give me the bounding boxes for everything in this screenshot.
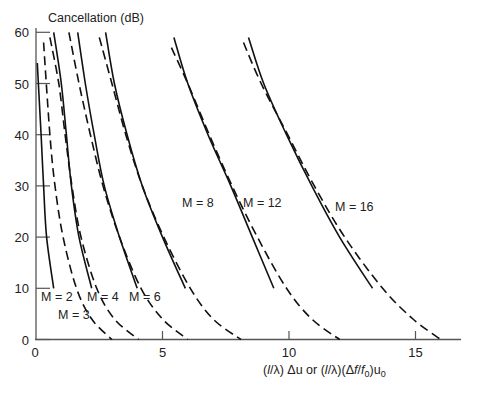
- curve-label: M = 8: [182, 196, 214, 210]
- curve-label: M = 6: [129, 290, 161, 304]
- curve-label: M = 3: [58, 308, 90, 322]
- y-tick-label: 0: [22, 333, 29, 348]
- x-tick-label: 5: [159, 345, 166, 360]
- x-tick-label: 15: [408, 345, 422, 360]
- x-ticks: 051015: [31, 331, 422, 360]
- x-tick-label: 10: [282, 345, 296, 360]
- solid-curve: [174, 37, 274, 288]
- curve-label: M = 16: [335, 200, 374, 214]
- x-tick-label: 0: [31, 345, 38, 360]
- curve-label: M = 12: [243, 196, 282, 210]
- y-tick-label: 40: [15, 128, 29, 143]
- dashed-curve: [171, 48, 339, 340]
- dashed-curve: [244, 43, 441, 340]
- x-axis-title: (l/λ) Δu or (l/λ)(Δf/f0)u0: [263, 363, 386, 379]
- y-tick-label: 30: [15, 179, 29, 194]
- dashed-curve: [99, 37, 241, 339]
- curve-label: M = 4: [87, 290, 119, 304]
- solid-curve: [249, 37, 373, 288]
- curve-label: M = 2: [41, 290, 73, 304]
- y-axis-title: Cancellation (dB): [48, 11, 144, 25]
- solid-curve: [78, 32, 138, 288]
- solid-curve: [106, 32, 186, 288]
- cancellation-chart: 0102030405060 051015 Cancellation (dB) (…: [0, 0, 477, 395]
- y-tick-label: 60: [15, 25, 29, 40]
- solid-curve: [54, 32, 92, 288]
- solid-curve: [37, 63, 53, 288]
- y-tick-label: 50: [15, 77, 29, 92]
- y-tick-label: 10: [15, 281, 29, 296]
- curve-labels: M = 2M = 3M = 4M = 6M = 8M = 12M = 16: [41, 196, 374, 322]
- y-tick-label: 20: [15, 230, 29, 245]
